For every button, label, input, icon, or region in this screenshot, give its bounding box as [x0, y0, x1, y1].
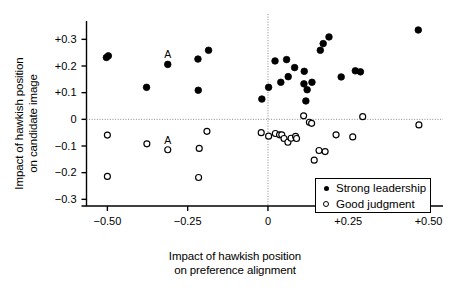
point-annotation-a: A	[161, 49, 175, 60]
legend-label: Strong leadership	[336, 182, 426, 194]
legend-item-good-judgment: Good judgment	[316, 196, 430, 212]
legend-item-strong-leadership: Strong leadership	[316, 180, 430, 196]
open-circle-marker-icon	[316, 201, 336, 207]
legend-label: Good judgment	[336, 198, 415, 210]
point-annotation-layer: AA	[0, 0, 451, 288]
filled-circle-marker-icon	[316, 186, 336, 191]
point-annotation-a: A	[161, 135, 175, 146]
legend: Strong leadershipGood judgment	[315, 178, 431, 213]
scatter-plot-figure: Impact of hawkish position on candidate …	[0, 0, 451, 288]
